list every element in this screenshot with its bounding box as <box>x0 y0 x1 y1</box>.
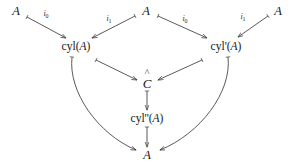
node-a-top-left: A <box>12 5 20 18</box>
arrow-i0-left <box>27 17 66 38</box>
edge-label-i0-left: i0 <box>43 10 48 18</box>
arrow-cylprime-to-chat <box>158 60 202 80</box>
arrow-i1-center <box>92 16 135 38</box>
node-cyl-a: cyl(A) <box>62 41 91 53</box>
node-cyl-prime-a: cyl'(A) <box>211 41 242 53</box>
node-a-top-center: A <box>142 5 150 18</box>
node-c-hat-label: C <box>143 76 152 91</box>
node-cyl-dprime-a: cyl''(A) <box>131 113 164 125</box>
edge-label-i0-center: i0 <box>182 15 187 23</box>
edge-label-i1-right: i1 <box>240 13 245 21</box>
node-a-top-right: A <box>274 5 282 18</box>
arrow-cyl-to-chat <box>96 60 137 80</box>
commutative-diagram: cyl(A) : i0 --> cyl(A) : i1 --> cyl'(A) … <box>0 0 294 167</box>
node-a-bottom: A <box>143 149 151 162</box>
arrow-cylprime-to-a-curved <box>160 57 228 150</box>
circumflex-accent-icon: ^ <box>145 68 150 78</box>
edge-label-i1-center: i1 <box>106 15 111 23</box>
node-c-hat: ^ C <box>143 77 152 90</box>
arrow-cyl-to-a-curved <box>72 57 136 150</box>
